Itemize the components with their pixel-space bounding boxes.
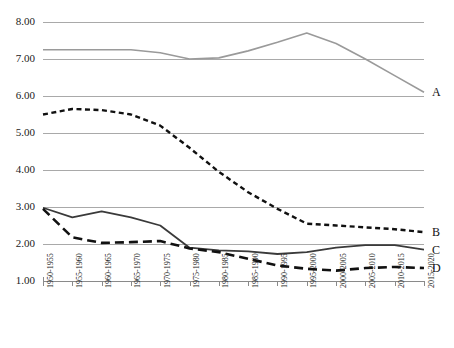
x-tick-mark xyxy=(131,281,132,286)
x-tick-mark xyxy=(102,281,103,286)
x-tick-mark xyxy=(72,281,73,286)
x-tick-mark xyxy=(336,281,337,286)
x-tick-label-1955-1960: 1955-1960 xyxy=(76,253,84,288)
series-label-B: B xyxy=(432,226,440,238)
series-label-D: D xyxy=(432,262,441,274)
series-line-D xyxy=(43,209,424,271)
x-tick-mark xyxy=(395,281,396,286)
x-tick-label-1975-1980: 1975-1980 xyxy=(193,253,201,288)
series-label-A: A xyxy=(432,86,441,98)
x-tick-mark xyxy=(424,281,425,286)
x-tick-mark xyxy=(190,281,191,286)
x-tick-label-2000-2005: 2000-2005 xyxy=(340,253,348,288)
x-tick-mark xyxy=(365,281,366,286)
x-tick-mark xyxy=(248,281,249,286)
x-tick-mark xyxy=(43,281,44,286)
x-tick-mark xyxy=(307,281,308,286)
x-tick-label-1985-1990: 1985-1990 xyxy=(252,253,260,288)
series-label-C: C xyxy=(432,244,440,256)
x-tick-label-1980-1985: 1980-1985 xyxy=(222,253,230,288)
x-tick-mark xyxy=(160,281,161,286)
series-line-B xyxy=(43,109,424,232)
x-tick-label-1960-1965: 1960-1965 xyxy=(105,253,113,288)
plot-area xyxy=(0,0,454,348)
series-line-A xyxy=(43,33,424,92)
x-tick-label-2005-2010: 2005-2010 xyxy=(369,253,377,288)
x-tick-mark xyxy=(219,281,220,286)
x-tick-label-1965-1970: 1965-1970 xyxy=(134,253,142,288)
x-tick-label-1950-1955: 1950-1955 xyxy=(47,253,55,288)
x-tick-label-1995-2000: 1995-2000 xyxy=(310,253,318,288)
x-tick-mark xyxy=(277,281,278,286)
x-tick-label-1970-1975: 1970-1975 xyxy=(164,253,172,288)
x-tick-label-2010-2015: 2010-2015 xyxy=(398,253,406,288)
series-line-C xyxy=(43,208,424,254)
line-chart: 8.007.006.005.004.003.002.001.00 1950-19… xyxy=(0,0,454,348)
x-tick-label-1990-1995: 1990-1995 xyxy=(281,253,289,288)
